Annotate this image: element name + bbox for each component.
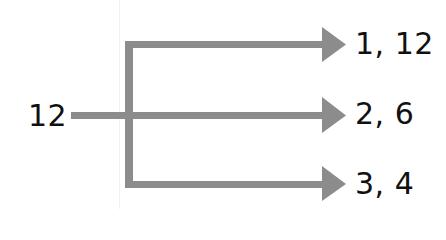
branch-line-3 <box>125 181 325 188</box>
arrow-head-1-icon <box>322 27 346 62</box>
arrow-head-2-icon <box>322 97 346 133</box>
branch-label-3: 3, 4 <box>355 169 414 199</box>
branch-line-2 <box>129 112 325 119</box>
branch-label-1: 1, 12 <box>355 29 434 59</box>
branch-line-1 <box>125 41 325 48</box>
root-connector <box>71 112 129 119</box>
root-label: 12 <box>28 101 67 131</box>
arrow-head-3-icon <box>322 166 346 201</box>
branch-label-2: 2, 6 <box>355 99 414 129</box>
